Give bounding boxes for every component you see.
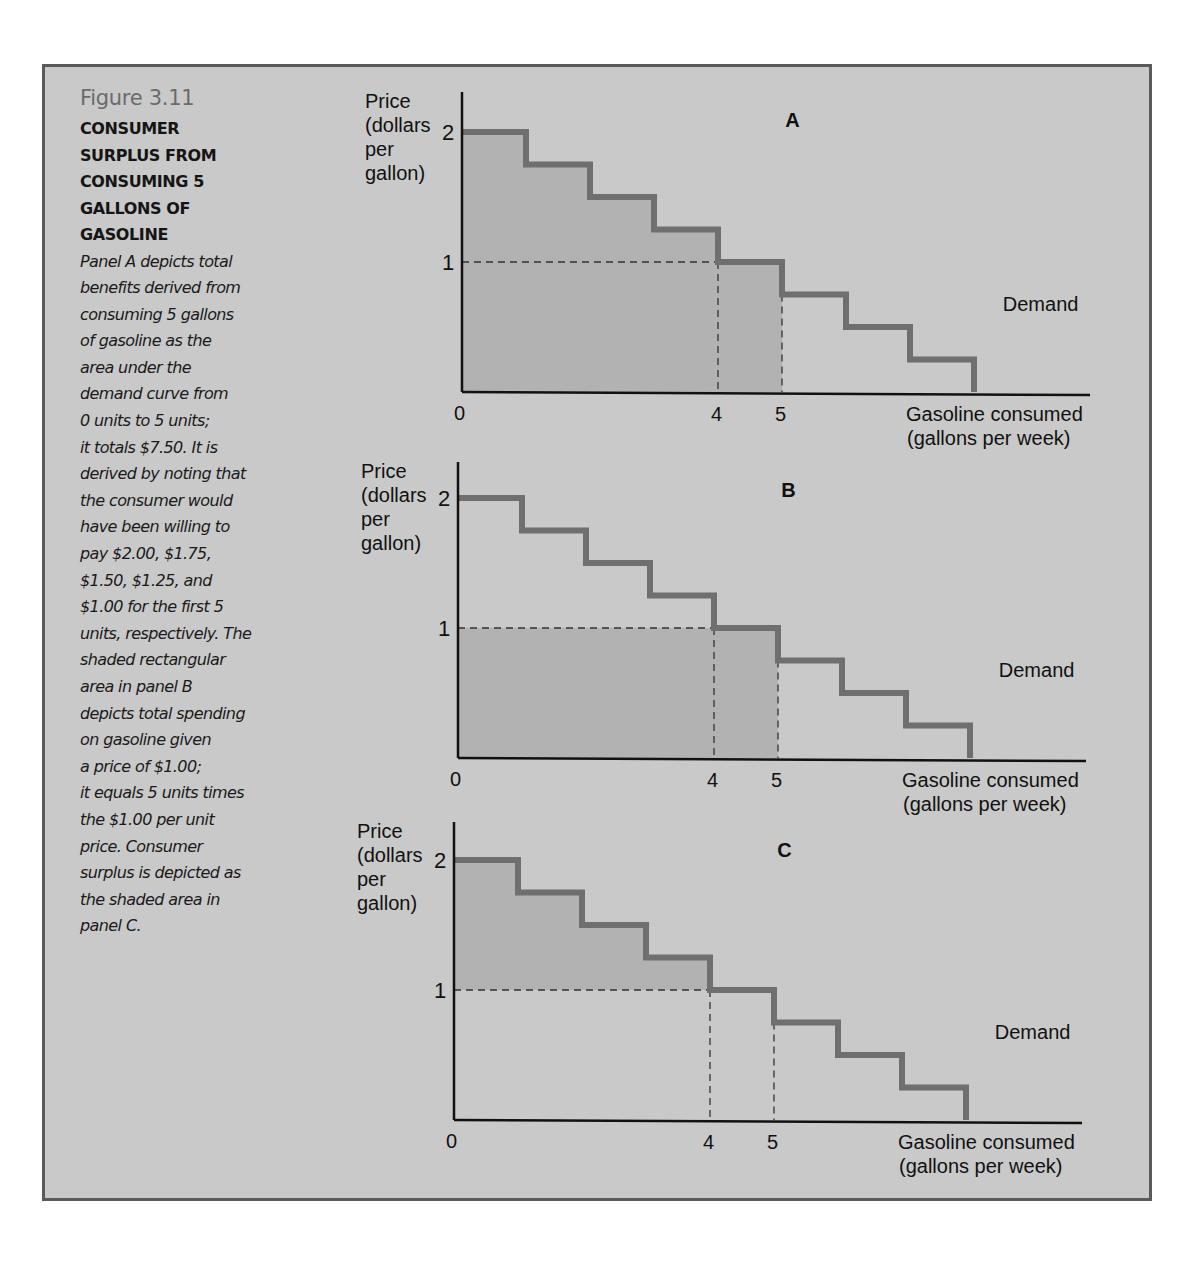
x-axis-label: Gasoline consumed: [902, 769, 1079, 791]
y-axis-label: per: [361, 508, 390, 530]
y-axis-label: (dollars: [357, 844, 423, 866]
y-axis-label: per: [365, 138, 394, 160]
x-tick-4: 4: [703, 1131, 714, 1153]
x-axis-label: Gasoline consumed: [898, 1131, 1075, 1153]
panel-label: C: [777, 839, 791, 861]
y-axis-label: Price: [361, 460, 407, 482]
panel-label: A: [785, 109, 799, 131]
x-axis-label: Gasoline consumed: [906, 403, 1083, 425]
y-tick-2: 2: [438, 486, 450, 511]
y-tick-1: 1: [442, 250, 454, 275]
panel-b-chart: Price(dollarspergallon)21045Gasoline con…: [361, 460, 1086, 815]
demand-label: Demand: [1003, 293, 1079, 315]
y-tick-2: 2: [442, 120, 454, 145]
x-axis: [458, 758, 1086, 761]
x-tick-5: 5: [775, 403, 786, 425]
panel-c-chart: Price(dollarspergallon)21045Gasoline con…: [357, 820, 1082, 1177]
x-tick-5: 5: [771, 769, 782, 791]
charts-area: Price(dollarspergallon)21045Gasoline con…: [0, 0, 1203, 1267]
y-axis-label: (dollars: [361, 484, 427, 506]
x-axis-label: (gallons per week): [907, 427, 1070, 449]
y-axis-label: Price: [357, 820, 403, 842]
demand-label: Demand: [995, 1021, 1071, 1043]
y-axis-label: gallon): [361, 532, 421, 554]
x-axis: [454, 1120, 1082, 1123]
y-axis-label: per: [357, 868, 386, 890]
x-tick-0: 0: [446, 1130, 457, 1152]
shaded-area: [458, 628, 778, 758]
panel-a-chart: Price(dollarspergallon)21045Gasoline con…: [365, 90, 1090, 449]
x-tick-0: 0: [450, 768, 461, 790]
y-tick-1: 1: [438, 616, 450, 641]
x-tick-4: 4: [711, 403, 722, 425]
x-axis: [462, 392, 1090, 395]
y-axis-label: Price: [365, 90, 411, 112]
x-axis-label: (gallons per week): [899, 1155, 1062, 1177]
y-axis-label: gallon): [357, 892, 417, 914]
y-tick-1: 1: [434, 978, 446, 1003]
x-axis-label: (gallons per week): [903, 793, 1066, 815]
y-axis-label: gallon): [365, 162, 425, 184]
x-tick-0: 0: [454, 402, 465, 424]
y-tick-2: 2: [434, 848, 446, 873]
x-tick-5: 5: [767, 1131, 778, 1153]
x-tick-4: 4: [707, 769, 718, 791]
panel-label: B: [781, 479, 795, 501]
demand-label: Demand: [999, 659, 1075, 681]
y-axis-label: (dollars: [365, 114, 431, 136]
